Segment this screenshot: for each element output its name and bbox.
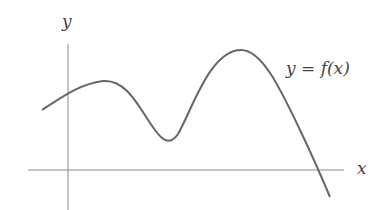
- x-axis-label: x: [357, 158, 367, 178]
- curve-label: y = f(x): [285, 58, 350, 78]
- y-axis-label: y: [61, 11, 72, 31]
- function-graph: y x y = f(x): [0, 0, 388, 210]
